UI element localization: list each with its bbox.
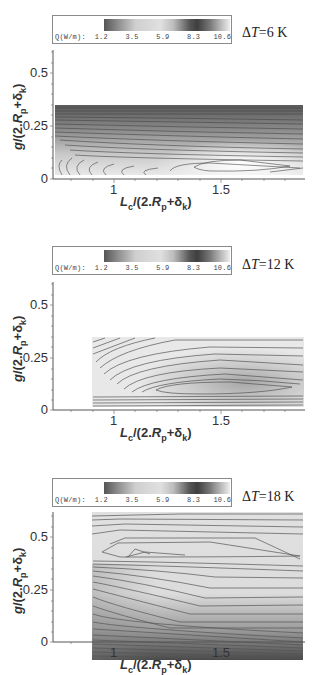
ytick-0: 0 <box>8 634 48 649</box>
xtick-1: 1 <box>110 413 117 428</box>
panel-dt6: Q(W/m): 1.2 3.5 5.9 8.3 10.6 ΔT=6 K <box>0 0 316 222</box>
xtick-1.5: 1.5 <box>212 413 230 428</box>
panel-dt18: Q(W/m): 1.2 3.5 5.9 8.3 10.6 ΔT=18 K <box>0 464 316 675</box>
ytick-0: 0 <box>8 402 48 417</box>
y-axis-label: g/(2.Rp+δk) <box>10 62 28 172</box>
xtick-1: 1 <box>110 645 117 660</box>
xtick-1.5: 1.5 <box>212 645 230 660</box>
xtick-1: 1 <box>110 182 117 197</box>
panel-dt12: Q(W/m): 1.2 3.5 5.9 8.3 10.6 ΔT=12 K <box>0 232 316 454</box>
y-axis-label: g/(2.Rp+δk) <box>10 294 28 404</box>
contour-plot <box>0 232 316 454</box>
x-axis-label: Lc/(2.Rp+δk) <box>120 657 192 675</box>
xtick-1.5: 1.5 <box>212 182 230 197</box>
y-axis-label: g/(2.Rp+δk) <box>10 526 28 636</box>
x-axis-label: Lc/(2.Rp+δk) <box>120 425 192 443</box>
ytick-0: 0 <box>8 171 48 186</box>
x-axis-label: Lc/(2.Rp+δk) <box>120 194 192 212</box>
contour-plot <box>0 0 316 222</box>
